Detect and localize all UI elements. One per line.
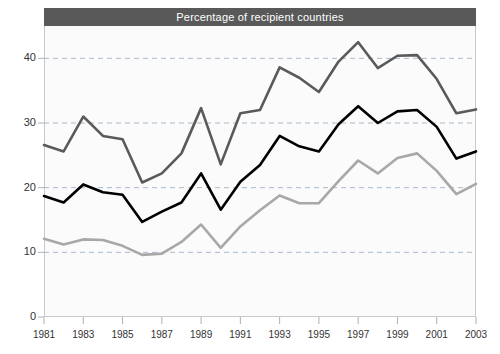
series-line-middle [44, 106, 476, 222]
x-tick-label: 2003 [456, 330, 496, 340]
y-tick-label: 30 [6, 117, 36, 128]
x-tick-label: 1981 [24, 330, 64, 340]
x-tick-label: 2001 [417, 330, 457, 340]
y-tick-label: 20 [6, 182, 36, 193]
y-tick-label: 0 [6, 311, 36, 322]
x-tick-label: 1989 [181, 330, 221, 340]
x-tick-label: 1997 [338, 330, 378, 340]
x-tick-label: 1983 [63, 330, 103, 340]
series-line-upper [44, 42, 476, 182]
x-tick-label: 1991 [220, 330, 260, 340]
x-tick-label: 1985 [103, 330, 143, 340]
x-tick-label: 1993 [260, 330, 300, 340]
x-tick-label: 1995 [299, 330, 339, 340]
y-tick-label: 40 [6, 52, 36, 63]
plot-svg [0, 0, 500, 354]
chart-container: Percentage of recipient countries 010203… [0, 0, 500, 354]
x-tick-label: 1999 [377, 330, 417, 340]
series-line-lower [44, 153, 476, 255]
series-lines [44, 42, 476, 255]
y-tick-label: 10 [6, 246, 36, 257]
x-tick-label: 1987 [142, 330, 182, 340]
